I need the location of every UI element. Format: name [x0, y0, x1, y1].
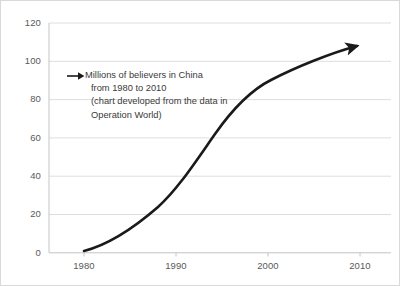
x-axis-ticks: [84, 253, 360, 257]
chart-plot-area: [1, 1, 400, 286]
annotation-line-4: Operation World): [85, 109, 295, 122]
x-tick-label-1990: 1990: [156, 260, 196, 271]
chart-screenshot: 120 100 80 60 40 20 0 1980 1990 2000 201…: [0, 0, 400, 286]
arrow-right-icon: [67, 70, 85, 82]
y-tick-label-40: 40: [15, 170, 41, 181]
annotation-line-1: Millions of believers in China: [85, 69, 295, 82]
y-tick-label-80: 80: [15, 93, 41, 104]
x-tick-label-2000: 2000: [248, 260, 288, 271]
annotation-line-3: (chart developed from the data in: [85, 95, 295, 108]
y-tick-label-20: 20: [15, 208, 41, 219]
x-tick-label-2010: 2010: [340, 260, 380, 271]
y-tick-label-60: 60: [15, 132, 41, 143]
annotation-line-2: from 1980 to 2010: [85, 82, 295, 95]
x-tick-label-1980: 1980: [64, 260, 104, 271]
y-tick-label-120: 120: [15, 17, 41, 28]
y-tick-label-0: 0: [15, 247, 41, 258]
chart-annotation: Millions of believers in China from 1980…: [85, 69, 295, 122]
y-tick-label-100: 100: [15, 55, 41, 66]
